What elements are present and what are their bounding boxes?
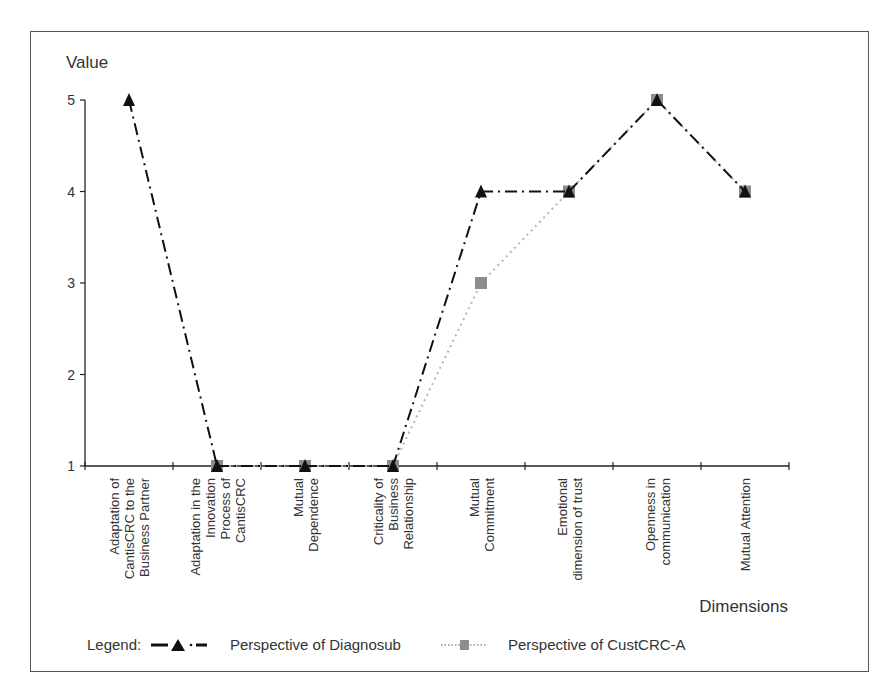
y-axis: 12345 — [67, 92, 85, 474]
y-tick-label: 5 — [67, 92, 75, 108]
x-category-label: Process of — [218, 478, 233, 540]
legend-label-custcrc-a: Perspective of CustCRC-A — [508, 636, 686, 653]
data-series — [123, 93, 751, 472]
x-category-label: Mutual Attention — [738, 478, 753, 571]
x-category-label: Commitment — [482, 478, 497, 552]
series-line-segment — [129, 100, 217, 466]
legend-label-diagnosub: Perspective of Diagnosub — [230, 636, 401, 653]
series-diagnosub — [123, 93, 751, 472]
legend: Legend: Perspective of Diagnosub Perspec… — [87, 636, 686, 653]
y-tick-label: 1 — [67, 458, 75, 474]
x-category-label: CantisCRC — [233, 478, 248, 543]
square-marker-icon — [460, 640, 469, 650]
x-category-label: Mutual — [291, 478, 306, 517]
series-line-segment — [393, 192, 481, 467]
x-category-label: dimension of trust — [570, 478, 585, 581]
series-custcrc-a — [211, 94, 751, 472]
legend-prefix: Legend: — [87, 636, 141, 653]
y-tick-label: 4 — [67, 184, 75, 200]
x-category-label: CantisCRC to the — [122, 478, 137, 579]
x-axis-category-labels: Adaptation ofCantisCRC to theBusiness Pa… — [107, 477, 753, 580]
x-axis — [85, 462, 789, 470]
x-category-label: Relationship — [401, 478, 416, 550]
x-category-label: Emotional — [555, 478, 570, 536]
x-axis-label: Dimensions — [699, 597, 788, 616]
x-category-label: Criticality of — [371, 478, 386, 546]
line-chart: Value 12345 Adaptation ofCantisCRC to th… — [0, 0, 890, 700]
x-category-label: Dependence — [306, 478, 321, 552]
x-category-label: Adaptation of — [107, 478, 122, 555]
series-line-segment — [481, 192, 569, 284]
legend-dot-icon — [190, 644, 193, 647]
x-category-label: Business — [386, 478, 401, 531]
triangle-marker-icon — [123, 93, 135, 106]
series-line-segment — [393, 283, 481, 466]
triangle-marker-icon — [171, 639, 185, 651]
x-category-label: Business Partner — [137, 477, 152, 577]
legend-item-custcrc-a: Perspective of CustCRC-A — [441, 636, 686, 653]
x-category-label: Innovation — [203, 478, 218, 538]
legend-item-diagnosub: Perspective of Diagnosub — [151, 636, 401, 653]
y-tick-label: 3 — [67, 275, 75, 291]
y-axis-label: Value — [66, 53, 108, 72]
square-marker-icon — [475, 277, 487, 289]
x-category-label: Adaptation in the — [188, 478, 203, 576]
x-category-label: Openness in — [643, 478, 658, 551]
x-category-label: communication — [658, 478, 673, 565]
y-tick-label: 2 — [67, 367, 75, 383]
x-category-label: Mutual — [467, 478, 482, 517]
